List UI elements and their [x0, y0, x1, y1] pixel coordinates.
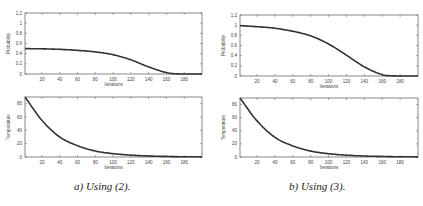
x-tick-label: 80 — [93, 160, 99, 165]
x-axis-label: Iterations — [320, 84, 339, 89]
x-tick-label: 140 — [145, 160, 153, 165]
x-tick-label: 80 — [308, 160, 314, 165]
x-tick-label: 140 — [145, 77, 153, 82]
y-tick-label: 0.4 — [16, 51, 23, 56]
y-tick-label: 40 — [232, 128, 238, 133]
y-tick-label: 20 — [232, 141, 238, 146]
axes-box — [240, 98, 418, 157]
x-tick-label: 60 — [75, 77, 81, 82]
figure-canvas: 2040608010012014016018000.20.40.60.811.2… — [0, 0, 423, 206]
x-axis-label: Iterations — [104, 165, 123, 170]
x-tick-label: 60 — [290, 79, 296, 84]
y-axis-label: Probability — [221, 34, 226, 56]
x-tick-label: 140 — [361, 79, 369, 84]
caption-a: a) Using (2). — [74, 180, 131, 192]
x-tick-label: 40 — [272, 79, 278, 84]
x-tick-label: 20 — [254, 160, 260, 165]
x-tick-label: 180 — [396, 160, 404, 165]
x-tick-label: 40 — [272, 160, 278, 165]
plot-a-probability: 2040608010012014016018000.20.40.60.811.2… — [6, 11, 202, 87]
y-tick-label: 0.8 — [231, 33, 238, 38]
x-tick-label: 120 — [127, 77, 135, 82]
y-tick-label: 1 — [19, 21, 22, 26]
y-tick-label: 0 — [19, 155, 22, 160]
x-tick-label: 80 — [93, 77, 99, 82]
x-tick-label: 140 — [361, 160, 369, 165]
y-tick-label: 0.2 — [16, 61, 23, 66]
y-tick-label: 1.2 — [231, 13, 238, 18]
x-tick-label: 120 — [343, 79, 351, 84]
axes-box — [240, 15, 418, 76]
x-tick-label: 60 — [75, 160, 81, 165]
y-tick-label: 0 — [19, 72, 22, 77]
plot-b-temperature: 20406080100120140160180020406080Iteratio… — [221, 98, 418, 170]
x-tick-label: 20 — [39, 77, 45, 82]
axes-box — [25, 13, 202, 74]
x-tick-label: 180 — [180, 160, 188, 165]
y-tick-label: 80 — [232, 102, 238, 107]
y-tick-label: 0.6 — [231, 43, 238, 48]
x-tick-label: 40 — [57, 77, 63, 82]
y-tick-label: 20 — [17, 141, 23, 146]
y-axis-label: Probability — [6, 32, 11, 54]
x-tick-label: 20 — [254, 79, 260, 84]
x-tick-label: 160 — [163, 77, 171, 82]
x-axis-label: Iterations — [320, 165, 339, 170]
x-tick-label: 180 — [180, 77, 188, 82]
y-tick-label: 0.4 — [231, 53, 238, 58]
y-tick-label: 1 — [234, 23, 237, 28]
y-axis-label: Temperature — [6, 114, 11, 140]
plot-a-temperature: 20406080100120140160180020406080Iteratio… — [6, 97, 202, 170]
y-tick-label: 60 — [232, 115, 238, 120]
x-tick-label: 120 — [343, 160, 351, 165]
x-tick-label: 20 — [39, 160, 45, 165]
y-tick-label: 0 — [234, 74, 237, 79]
x-tick-label: 180 — [396, 79, 404, 84]
x-tick-label: 160 — [378, 79, 386, 84]
x-tick-label: 160 — [163, 160, 171, 165]
x-tick-label: 60 — [290, 160, 296, 165]
y-tick-label: 40 — [17, 128, 23, 133]
axes-box — [25, 97, 202, 157]
caption-b: b) Using (3). — [289, 180, 346, 192]
x-axis-label: Iterations — [104, 82, 123, 87]
y-tick-label: 0.2 — [231, 63, 238, 68]
x-tick-label: 120 — [127, 160, 135, 165]
y-tick-label: 60 — [17, 115, 23, 120]
y-tick-label: 0.8 — [16, 31, 23, 36]
y-tick-label: 80 — [17, 101, 23, 106]
y-axis-label: Temperature — [221, 114, 226, 140]
x-tick-label: 40 — [57, 160, 63, 165]
x-tick-label: 160 — [378, 160, 386, 165]
plot-b-probability: 2040608010012014016018000.20.40.60.811.2… — [221, 13, 418, 89]
y-tick-label: 0 — [234, 155, 237, 160]
y-tick-label: 1.2 — [16, 11, 23, 16]
y-tick-label: 0.6 — [16, 41, 23, 46]
x-tick-label: 80 — [308, 79, 314, 84]
